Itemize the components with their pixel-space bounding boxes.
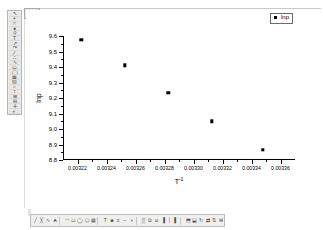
x-axis-tick-label: 0.00326 [126, 165, 145, 171]
x-axis-title-exponent: -1 [179, 176, 183, 182]
x-axis-tick-label: 0.00322 [68, 165, 87, 171]
plot-canvas: lnp lnp T-1 8.88.99.09.19.29.39.49.59.60… [26, 10, 319, 206]
arrow-icon[interactable]: ⮝ [52, 216, 59, 225]
drawing-toolbar[interactable]: ╱╳∿⮝◠▭◯⬠▦T■≡┄◑▒⧉⧈▐│▌⬒⬓↻⇄⇅⊞ [30, 214, 225, 227]
y-axis-tick [59, 98, 63, 99]
x-axis-tick [281, 160, 282, 164]
data-point[interactable] [261, 148, 264, 151]
data-point[interactable] [166, 91, 169, 94]
y-axis-tick-label: 9.5 [49, 49, 57, 55]
application-window: ↖⌖⌗●⚲T↗↷╱∴∿▭◯▦▨⌕↕⊞⊟✛◐ ╱╳∿⮝◠▭◯⬠▦T■≡┄◑▒⧉⧈▐… [0, 0, 323, 230]
y-axis-minor-tick [61, 75, 63, 76]
y-axis-tick-label: 9.2 [49, 95, 57, 101]
lock-icon[interactable]: ⊞ [218, 216, 225, 225]
toolbar-separator [180, 217, 184, 225]
y-axis-minor-tick [61, 44, 63, 45]
x-axis-tick-label: 0.00332 [213, 165, 232, 171]
data-point[interactable] [79, 38, 82, 41]
y-axis-tick [59, 145, 63, 146]
y-axis-tick [59, 160, 63, 161]
chart-legend[interactable]: lnp [270, 13, 293, 24]
toolbar-separator [59, 217, 63, 225]
y-axis-tick [59, 129, 63, 130]
x-axis-minor-tick [121, 160, 122, 162]
x-axis-tick [136, 160, 137, 164]
x-axis-tick [194, 160, 195, 164]
y-axis-tick [59, 67, 63, 68]
region-icon[interactable]: ▦ [90, 216, 97, 225]
y-axis-minor-tick [61, 137, 63, 138]
x-axis-tick [78, 160, 79, 164]
y-axis-title: lnp [35, 93, 42, 102]
graph-tools-toolbar[interactable]: ↖⌖⌗●⚲T↗↷╱∴∿▭◯▦▨⌕↕⊞⊟✛◐ [7, 10, 22, 115]
y-axis-line [63, 36, 64, 160]
toolbar-separator [97, 217, 101, 225]
y-axis-minor-tick [61, 90, 63, 91]
y-axis-tick-label: 8.9 [49, 142, 57, 148]
y-axis-tick-label: 9.6 [49, 33, 57, 39]
align-right-icon[interactable]: ▌ [173, 216, 180, 225]
y-axis-minor-tick [61, 106, 63, 107]
x-axis-tick-label: 0.00328 [155, 165, 174, 171]
toolbar-separator [136, 217, 140, 225]
y-axis-tick [59, 114, 63, 115]
y-axis-minor-tick [61, 59, 63, 60]
x-axis-title: T-1 [175, 176, 184, 185]
y-axis-tick-label: 9.3 [49, 80, 57, 86]
x-axis-minor-tick [92, 160, 93, 162]
x-axis-tick-label: 0.00336 [271, 165, 290, 171]
y-axis-tick-label: 9.0 [49, 126, 57, 132]
y-axis-minor-tick [61, 121, 63, 122]
y-axis-minor-tick [61, 152, 63, 153]
y-axis-tick-label: 8.8 [49, 157, 57, 163]
x-axis-tick [252, 160, 253, 164]
square-marker [274, 16, 277, 19]
x-axis-tick-label: 0.00330 [184, 165, 203, 171]
x-axis-tick [107, 160, 108, 164]
x-axis-minor-tick [237, 160, 238, 162]
color-icon[interactable]: ◑ [128, 216, 135, 225]
x-axis-tick [223, 160, 224, 164]
x-axis-tick [165, 160, 166, 164]
y-axis-tick-label: 9.4 [49, 64, 57, 70]
y-axis-tick [59, 52, 63, 53]
x-axis-tick-label: 0.00324 [97, 165, 116, 171]
x-axis-minor-tick [150, 160, 151, 162]
data-point[interactable] [123, 64, 126, 67]
plot-area[interactable]: lnp T-1 8.88.99.09.19.29.39.49.59.60.003… [63, 36, 295, 160]
data-point[interactable] [210, 120, 213, 123]
legend-label: lnp [281, 14, 289, 22]
y-axis-tick [59, 36, 63, 37]
color-picker-icon[interactable]: ◐ [9, 109, 20, 114]
x-axis-minor-tick [179, 160, 180, 162]
x-axis-minor-tick [266, 160, 267, 162]
y-axis-tick [59, 83, 63, 84]
x-axis-minor-tick [208, 160, 209, 162]
x-axis-tick-label: 0.00334 [242, 165, 261, 171]
y-axis-tick-label: 9.1 [49, 111, 57, 117]
